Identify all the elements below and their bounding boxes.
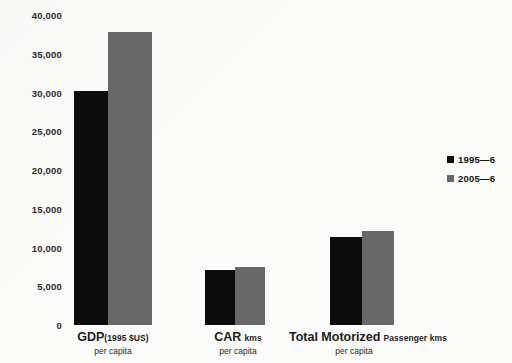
y-axis-tick: 40,000	[0, 10, 62, 21]
group-label-main-line: Total MotorizedPassenger kms	[289, 330, 447, 345]
y-axis-tick: 35,000	[0, 48, 62, 59]
legend-item-1995: 1995—6	[447, 152, 495, 167]
group-label-main-line: CARkms	[214, 330, 261, 345]
group-label-unit: Passenger kms	[383, 333, 447, 343]
legend-swatch-icon	[447, 175, 454, 182]
x-axis-group-label-gdp: GDP(1995 $US) per capita	[77, 330, 149, 357]
plot-area: 40,000 35,000 30,000 25,000 20,000 15,00…	[0, 0, 512, 363]
y-axis-tick: 0	[0, 320, 62, 331]
group-label-main-line: GDP(1995 $US)	[77, 330, 149, 345]
legend-item-2005: 2005—6	[447, 171, 495, 186]
bar-car-2005	[235, 267, 265, 325]
group-label-sub: per capita	[77, 345, 149, 357]
x-axis-group-label-total-motorized: Total MotorizedPassenger kms per capita	[289, 330, 447, 357]
y-axis-tick: 15,000	[0, 203, 62, 214]
group-label-main: GDP	[77, 330, 104, 344]
chart-legend: 1995—6 2005—6	[447, 152, 495, 190]
bar-gdp-2005	[108, 32, 152, 325]
x-axis-group-label-car: CARkms per capita	[214, 330, 261, 357]
y-axis-tick: 5,000	[0, 281, 62, 292]
group-label-main: CAR	[214, 330, 241, 344]
bar-gdp-1995	[74, 91, 108, 325]
legend-swatch-icon	[447, 156, 454, 163]
group-label-unit: kms	[244, 333, 261, 343]
legend-label: 2005—6	[458, 173, 495, 184]
group-label-unit: (1995 $US)	[104, 333, 148, 343]
bar-car-1995	[205, 270, 235, 325]
bar-total-motorized-2005	[362, 231, 394, 325]
group-label-sub: per capita	[261, 345, 447, 357]
bar-total-motorized-1995	[330, 237, 362, 325]
group-label-main: Total Motorized	[289, 330, 380, 344]
y-axis-tick: 20,000	[0, 165, 62, 176]
group-label-sub: per capita	[214, 345, 261, 357]
y-axis-tick: 25,000	[0, 126, 62, 137]
y-axis-tick: 30,000	[0, 87, 62, 98]
legend-label: 1995—6	[458, 154, 495, 165]
bar-chart-figure: 40,000 35,000 30,000 25,000 20,000 15,00…	[0, 0, 512, 363]
y-axis-tick: 10,000	[0, 242, 62, 253]
